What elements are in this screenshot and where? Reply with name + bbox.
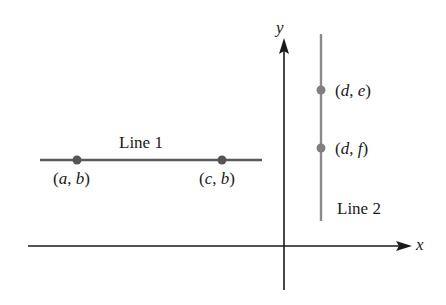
- line-1-label: Line 1: [119, 134, 163, 151]
- point-d-e: [317, 86, 326, 95]
- line-2-label: Line 2: [337, 200, 381, 217]
- point-d-f-label: (d, f): [335, 140, 368, 157]
- point-d-e-label: (d, e): [335, 82, 371, 99]
- point-c-b: [218, 156, 227, 165]
- coordinate-diagram: [0, 0, 446, 305]
- x-axis-label: x: [416, 236, 424, 253]
- point-c-b-label: (c, b): [199, 170, 235, 187]
- point-a-b-label: (a, b): [53, 170, 90, 187]
- point-a-b: [73, 156, 82, 165]
- point-d-f: [317, 144, 326, 153]
- y-axis-label: y: [276, 19, 284, 36]
